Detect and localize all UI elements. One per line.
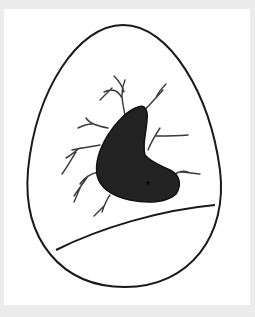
dark-mass bbox=[97, 106, 180, 202]
egg-illustration bbox=[0, 0, 255, 317]
dot bbox=[147, 182, 150, 185]
horizon-curve bbox=[56, 205, 215, 250]
